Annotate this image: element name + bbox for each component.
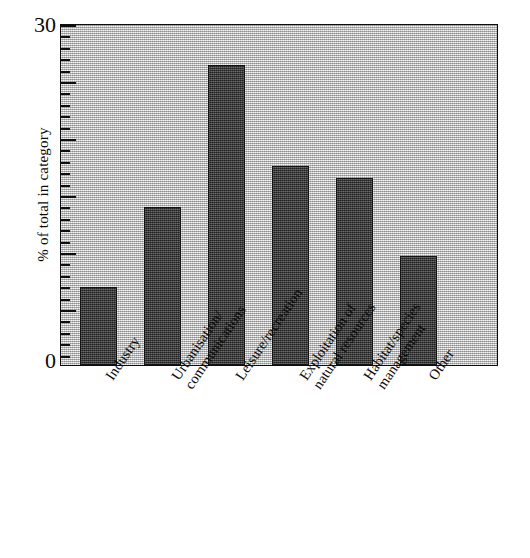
y-axis-major-tick: [61, 310, 76, 312]
y-axis-minor-tick: [61, 333, 70, 335]
y-axis-minor-tick: [61, 48, 70, 50]
y-axis-minor-tick: [61, 321, 70, 323]
y-axis-minor-tick: [61, 36, 70, 38]
y-axis-minor-tick: [61, 150, 70, 152]
y-axis-tick-label-min: 0: [22, 350, 56, 372]
y-axis-major-tick: [61, 25, 76, 27]
y-axis-minor-tick: [61, 71, 70, 73]
y-axis-minor-tick: [61, 264, 70, 266]
y-axis-major-tick: [61, 196, 76, 198]
y-axis-major-tick: [61, 139, 76, 141]
y-axis-minor-tick: [61, 128, 70, 130]
y-axis-tick-label-max: 30: [22, 14, 56, 36]
y-axis-minor-tick: [61, 185, 70, 187]
y-axis-minor-tick: [61, 287, 70, 289]
y-axis-minor-tick: [61, 207, 70, 209]
y-axis-minor-tick: [61, 59, 70, 61]
chart-figure: 30 0 % of total in category IndustryUrba…: [0, 0, 530, 558]
y-axis-minor-tick: [61, 173, 70, 175]
y-axis-major-tick: [61, 82, 76, 84]
y-axis-minor-tick: [61, 219, 70, 221]
y-axis-minor-tick: [61, 230, 70, 232]
y-axis-minor-tick: [61, 105, 70, 107]
bar: [80, 287, 117, 365]
y-axis-minor-tick: [61, 344, 70, 346]
y-axis-minor-tick: [61, 93, 70, 95]
y-axis-minor-tick: [61, 276, 70, 278]
y-axis-minor-tick: [61, 356, 70, 358]
y-axis-minor-tick: [61, 116, 70, 118]
y-axis-title: % of total in category: [35, 90, 52, 300]
y-axis-minor-tick: [61, 299, 70, 301]
y-axis-minor-tick: [61, 242, 70, 244]
y-axis-minor-tick: [61, 162, 70, 164]
y-axis-major-tick: [61, 253, 76, 255]
